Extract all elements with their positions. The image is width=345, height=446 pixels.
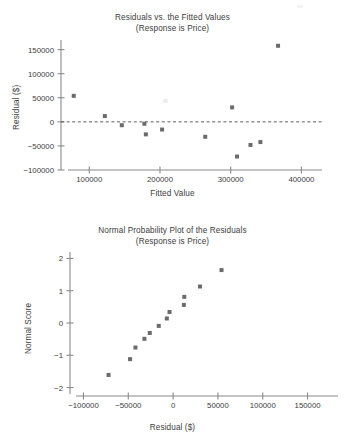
svg-text:0: 0 <box>50 118 55 127</box>
svg-text:150000: 150000 <box>28 46 55 55</box>
print-artifact <box>163 99 168 103</box>
figure1-x-axis-label: Fitted Value <box>0 189 345 198</box>
svg-text:50000: 50000 <box>207 401 229 410</box>
svg-text:0: 0 <box>171 401 176 410</box>
svg-text:400000: 400000 <box>288 175 315 184</box>
figure2-y-axis-label: Normal Score <box>24 303 33 354</box>
svg-text:0: 0 <box>59 319 64 328</box>
svg-text:1: 1 <box>59 287 63 296</box>
svg-text:100000: 100000 <box>28 70 55 79</box>
svg-text:−100000: −100000 <box>23 166 54 175</box>
svg-text:−50000: −50000 <box>28 142 55 151</box>
svg-text:−2: −2 <box>54 384 63 393</box>
svg-text:2: 2 <box>59 254 63 263</box>
svg-text:150000: 150000 <box>295 401 322 410</box>
figure1-y-axis-label: Residual ($) <box>12 85 21 130</box>
svg-text:200000: 200000 <box>147 175 174 184</box>
figure2-plot-area: 210−1−2−100000−50000050000100000150000 <box>0 223 345 446</box>
svg-text:50000: 50000 <box>32 94 54 103</box>
svg-text:−50000: −50000 <box>115 401 142 410</box>
print-artifact <box>297 5 303 8</box>
normal-probability-figure: Normal Probability Plot of the Residuals… <box>0 223 345 446</box>
figure2-x-axis-label: Residual ($) <box>0 423 345 432</box>
svg-text:100000: 100000 <box>76 175 103 184</box>
residuals-vs-fitted-figure: Residuals vs. the Fitted Values (Respons… <box>0 0 345 223</box>
svg-text:−100000: −100000 <box>68 401 99 410</box>
svg-text:300000: 300000 <box>218 175 245 184</box>
svg-text:100000: 100000 <box>250 401 277 410</box>
svg-text:−1: −1 <box>54 351 63 360</box>
